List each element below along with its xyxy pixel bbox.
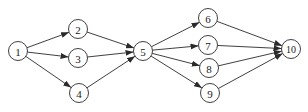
edge-6-to-10	[217, 21, 282, 45]
edge-5-to-9	[151, 56, 202, 88]
node-5: 5	[134, 42, 153, 61]
edge-5-to-6	[151, 22, 199, 46]
node-label: 5	[140, 46, 146, 58]
edge-8-to-10	[218, 51, 282, 66]
edge-1-to-2	[27, 32, 69, 47]
edge-1-to-4	[26, 56, 71, 87]
node-label: 10	[286, 44, 296, 55]
node-label: 1	[15, 46, 21, 58]
node-label: 6	[205, 13, 211, 25]
edge-5-to-8	[152, 53, 200, 65]
network-diagram: 12345678910	[0, 0, 308, 112]
edge-4-to-5	[87, 56, 135, 88]
node-10: 10	[282, 40, 301, 59]
edge-3-to-5	[87, 52, 133, 57]
node-4: 4	[70, 84, 89, 103]
node-8: 8	[200, 59, 219, 78]
node-3: 3	[69, 49, 88, 68]
edge-2-to-5	[87, 32, 134, 48]
node-7: 7	[199, 36, 218, 55]
node-label: 9	[207, 88, 213, 100]
edge-7-to-10	[217, 45, 281, 48]
node-1: 1	[9, 42, 28, 61]
node-6: 6	[199, 9, 218, 28]
node-label: 2	[75, 24, 81, 36]
nodes-layer: 12345678910	[9, 9, 301, 103]
node-label: 4	[76, 88, 82, 100]
edges-layer	[26, 21, 283, 88]
node-label: 7	[205, 40, 211, 52]
node-label: 8	[206, 63, 212, 75]
node-2: 2	[69, 20, 88, 39]
edge-5-to-7	[152, 46, 198, 50]
node-9: 9	[201, 84, 220, 103]
edge-1-to-3	[27, 52, 68, 57]
node-label: 3	[75, 53, 81, 65]
